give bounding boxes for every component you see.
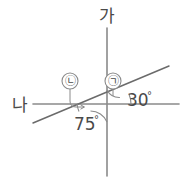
marker-label-nieun: ㉡ [65,75,76,88]
angle-degree-symbol-30: ° [147,90,152,101]
vertical-axis-label: 가 [99,6,115,26]
angle-label-75: 75 [74,114,96,134]
marker-label-giyeok: ㉠ [108,75,119,88]
angle-diagram-svg: ㉠ ㉡ 가 나 30 ° 75 ° [0,0,191,183]
angle-label-30: 30 [127,90,149,110]
angle-degree-symbol-75: ° [94,114,99,125]
arc-marker-nieun [77,104,79,112]
horizontal-axis-label: 나 [12,95,28,115]
geometry-figure-container: ㉠ ㉡ 가 나 30 ° 75 ° [0,0,191,183]
